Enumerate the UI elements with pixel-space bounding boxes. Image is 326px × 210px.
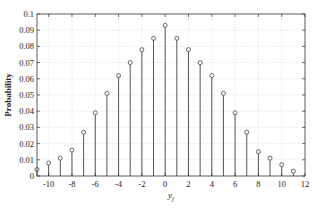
- y-tick-label: 0.03: [19, 122, 34, 132]
- y-tick-label: 0.01: [19, 155, 34, 165]
- stem-marker: [175, 36, 179, 40]
- x-tick-label: 4: [210, 179, 215, 189]
- y-tick-label: 0.07: [19, 58, 34, 68]
- x-tick-label: 10: [277, 179, 286, 189]
- x-tick-label: 6: [233, 179, 237, 189]
- x-tick-label: -2: [138, 179, 145, 189]
- y-tick-label: 0.05: [19, 90, 34, 100]
- y-tick-label: 0.02: [19, 139, 34, 149]
- stem-marker: [198, 61, 202, 65]
- stem-marker: [152, 36, 156, 40]
- stem-marker: [291, 169, 295, 173]
- stem-marker: [256, 150, 260, 154]
- x-tick-label: -4: [115, 179, 123, 189]
- stem-marker: [140, 48, 144, 52]
- stem-marker: [221, 91, 225, 95]
- x-axis-label: yj: [167, 190, 174, 202]
- x-axis-label-subscript: j: [171, 195, 174, 202]
- stem-chart: -10-8-6-4-2024681012 00.010.020.030.040.…: [0, 0, 326, 210]
- y-tick-label: 0.09: [19, 25, 34, 35]
- x-tick-label: 12: [301, 179, 310, 189]
- y-tick-label: 0.08: [19, 41, 34, 51]
- stem-marker: [233, 111, 237, 115]
- data-stems: [35, 23, 295, 176]
- stem-marker: [163, 23, 167, 27]
- stem-marker: [82, 130, 86, 134]
- y-tick-label: 0: [30, 171, 34, 181]
- stem-marker: [268, 156, 272, 160]
- y-tick-label: 0.06: [19, 74, 34, 84]
- stem-marker: [70, 148, 74, 152]
- y-tick-label: 0.1: [23, 9, 34, 19]
- y-tick-label: 0.04: [19, 106, 35, 116]
- stem-marker: [210, 74, 214, 78]
- stem-marker: [117, 74, 121, 78]
- stem-marker: [186, 48, 190, 52]
- x-tick-label: 2: [186, 179, 190, 189]
- x-tick-label: -8: [68, 179, 75, 189]
- x-tick-label: 8: [256, 179, 260, 189]
- stem-marker: [128, 61, 132, 65]
- x-tick-label: 0: [163, 179, 167, 189]
- stem-marker: [280, 163, 284, 167]
- stem-marker: [47, 161, 51, 165]
- x-tick-label: -6: [92, 179, 99, 189]
- stem-marker: [93, 111, 97, 115]
- stem-marker: [105, 91, 109, 95]
- grid-lines: [37, 14, 305, 176]
- stem-marker: [245, 130, 249, 134]
- x-tick-label: -10: [43, 179, 54, 189]
- y-axis-label: Probability: [3, 73, 13, 117]
- stem-marker: [58, 156, 62, 160]
